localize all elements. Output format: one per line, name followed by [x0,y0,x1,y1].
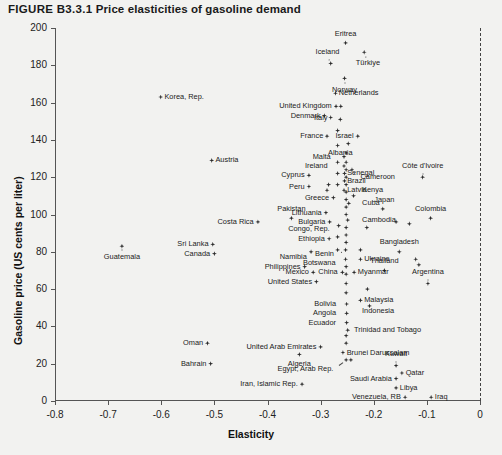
x-tick-label: -0.4 [248,409,288,420]
data-point [403,395,408,400]
data-point [344,205,349,210]
data-point [394,385,399,390]
point-label: Iraq [435,394,448,401]
data-point [429,395,434,400]
y-tick-label: 140 [13,134,47,145]
data-point [342,164,347,169]
point-label: Venezuela, RB [352,394,401,401]
data-point [397,249,402,254]
point-label: Ecuador [309,319,337,326]
y-tick-label: 20 [13,358,47,369]
data-point [344,281,349,286]
data-point [336,223,341,228]
point-label: Côte d'Ivoire [402,162,443,169]
point-label: Indonesia [362,308,394,315]
point-label: Benin [315,250,334,257]
point-label: Bahrain [181,360,206,367]
data-point [323,210,328,215]
point-label: Malta [313,153,331,160]
data-point [344,160,349,165]
y-tick-label: 80 [13,246,47,257]
point-label: Greece [305,194,329,201]
data-point [355,134,360,139]
point-label: Ireland [305,162,328,169]
data-point [338,117,343,122]
data-point [352,270,357,275]
point-label: Pakistan [277,205,305,212]
point-label: Netherlands [339,90,379,97]
data-point [306,173,311,178]
data-point [343,257,348,262]
y-tick-label: 40 [13,320,47,331]
point-label: Costa Rica [218,218,254,225]
point-label: Myanmar [358,269,389,276]
data-point [428,216,433,221]
point-label: Congo, Rep. [288,226,330,233]
data-point [335,171,340,176]
x-tick-mark [427,401,428,405]
point-label: Austria [215,157,238,164]
point-label: Cyprus [281,172,304,179]
x-tick-mark [108,401,109,405]
figure-title-text: Price elasticities of gasoline demand [96,3,301,15]
point-label: Cameroon [360,173,395,180]
point-label: Peru [289,183,305,190]
x-tick-label: -0.2 [354,409,394,420]
data-point [394,376,399,381]
data-point [208,361,213,366]
x-tick-mark [480,401,481,405]
data-point [344,225,349,230]
point-label: Sri Lanka [177,241,208,248]
data-point [255,219,260,224]
point-label: Egypt, Arab Rep. [278,366,334,373]
point-label: Japan [374,196,394,203]
data-point [338,104,343,109]
data-point [344,212,349,217]
x-tick-label: -0.3 [301,409,341,420]
point-label: Kenya [362,187,383,194]
x-axis-label: Elasticity [0,428,502,440]
y-tick-label: 100 [13,209,47,220]
data-point [364,225,369,230]
point-label: Guatemala [104,254,140,261]
data-point [399,371,404,376]
x-tick-mark [268,401,269,405]
data-point [358,247,363,252]
x-tick-label: -0.1 [407,409,447,420]
data-point [413,257,418,262]
data-point [416,262,421,267]
point-label: Bolivia [314,300,336,307]
data-point [311,270,316,275]
x-tick-mark [161,401,162,405]
data-point [335,143,340,148]
data-point [425,281,430,286]
figure-number: FIGURE B3.3.1 [8,3,92,15]
data-point [348,357,353,362]
x-tick-mark [321,401,322,405]
data-point [365,287,370,292]
data-point [343,40,348,45]
x-tick-mark [214,401,215,405]
point-label: Mexico [286,269,309,276]
data-point [306,184,311,189]
data-point [334,104,339,109]
point-label: United Kingdom [279,103,332,110]
data-point [328,61,333,66]
data-point [327,236,332,241]
data-point [209,158,214,163]
data-point [331,195,336,200]
data-point [358,257,363,262]
data-point [344,341,349,346]
label-leader-line [365,56,366,57]
data-point [346,201,351,206]
point-label: Albania [328,149,353,156]
point-label: Libya [400,384,418,391]
data-point [344,264,349,269]
x-tick-label: -0.7 [88,409,128,420]
data-point [344,357,349,362]
point-label: Qatar [406,369,424,376]
data-point [325,134,330,139]
data-point [119,244,124,249]
data-point [210,242,215,247]
data-point [314,279,319,284]
